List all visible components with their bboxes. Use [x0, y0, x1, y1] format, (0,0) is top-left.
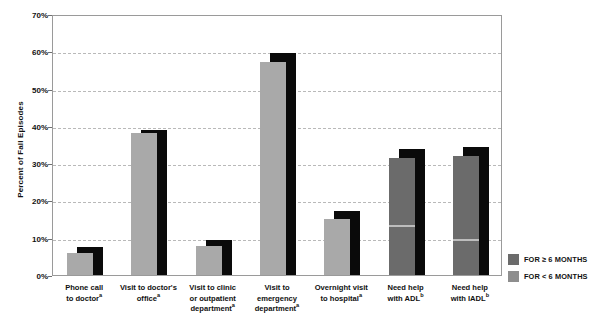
bar-6-months-or-more: [324, 219, 350, 275]
x-axis-tick-label-line: Visit to clinic: [181, 283, 245, 294]
footnote-marker: a: [99, 292, 102, 298]
bar-6-months-or-more: [131, 133, 157, 275]
chart-legend: FOR ≥ 6 MONTHSFOR < 6 MONTHS: [508, 252, 588, 286]
x-axis-tick-label: Overnight visitto hospitala: [309, 283, 373, 304]
bar-6-months-or-more: [453, 156, 479, 275]
bar-6-months-or-more: [196, 246, 222, 275]
bar-6-months-or-more: [389, 158, 415, 275]
y-axis-tick-label: 60%: [4, 48, 48, 57]
legend-swatch: [508, 254, 519, 265]
bar-group: [196, 14, 232, 275]
bar-group: [131, 14, 167, 275]
x-axis-tick-label-line: Visit to doctor's: [116, 283, 180, 294]
x-axis-tick-label: Phone callto doctora: [52, 283, 116, 304]
y-axis-tick-label: 50%: [4, 86, 48, 95]
bar-group: [324, 14, 360, 275]
chart-figure: Percent of Fall Episodes 0%10%20%30%40%5…: [0, 0, 602, 330]
bar-6-months-or-more: [260, 62, 286, 275]
x-axis-tick-label-line: officea: [116, 294, 180, 305]
footnote-marker: b: [486, 292, 489, 298]
x-axis-tick-label-line: departmenta: [181, 304, 245, 315]
x-axis-tick-label: Need helpwith ADLb: [373, 283, 437, 304]
footnote-marker: a: [157, 292, 160, 298]
x-axis-tick-label-line: or outpatient: [181, 294, 245, 305]
x-axis-tick-label-line: Need help: [438, 283, 502, 294]
bar-inner-divider: [453, 239, 479, 241]
legend-label: FOR ≥ 6 MONTHS: [524, 255, 587, 264]
footnote-marker: a: [296, 302, 299, 308]
y-axis-tick-mark: [48, 276, 52, 277]
y-axis-tick-label: 10%: [4, 235, 48, 244]
bar-inner-divider: [389, 225, 415, 227]
x-axis-tick-label: Visit to doctor'sofficea: [116, 283, 180, 304]
x-axis-tick-label-line: departmenta: [245, 304, 309, 315]
y-axis-tick-label: 40%: [4, 123, 48, 132]
x-axis-tick-label-line: Need help: [373, 283, 437, 294]
legend-label: FOR < 6 MONTHS: [524, 272, 588, 281]
bar-group: [453, 14, 489, 275]
x-axis-tick-label: Visit to clinicor outpatientdepartmenta: [181, 283, 245, 315]
x-axis-tick-label-line: Visit to: [245, 283, 309, 294]
bar-group: [389, 14, 425, 275]
x-axis-tick-label-line: Phone call: [52, 283, 116, 294]
x-axis-tick-label: Need helpwith IADLb: [438, 283, 502, 304]
x-axis-tick-label-line: emergency: [245, 294, 309, 305]
bar-6-months-or-more: [67, 253, 93, 275]
x-axis-tick-label-line: Overnight visit: [309, 283, 373, 294]
x-axis-tick-label-line: to doctora: [52, 294, 116, 305]
plot-area: [52, 15, 502, 276]
x-axis-tick-label: Visit toemergencydepartmenta: [245, 283, 309, 315]
y-axis-tick-label: 20%: [4, 197, 48, 206]
footnote-marker: b: [420, 292, 423, 298]
x-axis-tick-label-line: to hospitala: [309, 294, 373, 305]
x-axis-tick-label-line: with ADLb: [373, 294, 437, 305]
legend-item[interactable]: FOR < 6 MONTHS: [508, 269, 588, 284]
footnote-marker: a: [232, 302, 235, 308]
x-axis-tick-label-line: with IADLb: [438, 294, 502, 305]
y-axis-tick-label: 30%: [4, 160, 48, 169]
legend-swatch: [508, 271, 519, 282]
bar-group: [260, 14, 296, 275]
legend-item[interactable]: FOR ≥ 6 MONTHS: [508, 252, 588, 267]
bar-group: [67, 14, 103, 275]
y-axis-tick-label: 0%: [4, 272, 48, 281]
footnote-marker: a: [359, 292, 362, 298]
y-axis-tick-label: 70%: [4, 11, 48, 20]
